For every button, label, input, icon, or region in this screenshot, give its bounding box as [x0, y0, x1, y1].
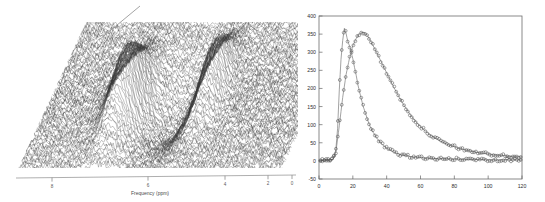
panel-background — [0, 0, 300, 202]
waterfall-svg: 86420 Frequency (ppm) — [0, 0, 300, 202]
y-tick-label: 0 — [313, 158, 316, 164]
x-tick-label-right: 60 — [418, 183, 424, 189]
panel-background-right — [300, 0, 545, 202]
y-tick-label: 50 — [310, 140, 316, 146]
panel-decay-curves: -50050100150200250300350400 020406080100… — [300, 0, 545, 202]
x-tick-label-right: 80 — [451, 183, 457, 189]
x-tick-label: 4 — [224, 182, 227, 187]
x-tick-label-right: 100 — [484, 183, 493, 189]
figure-container: 86420 Frequency (ppm) -50050100150200250… — [0, 0, 545, 202]
x-tick-label: 8 — [51, 184, 54, 189]
y-tick-label: 350 — [307, 31, 316, 37]
x-tick-label: 6 — [147, 183, 150, 188]
x-tick-label: 0 — [291, 181, 294, 186]
panel-waterfall-3d: 86420 Frequency (ppm) — [0, 0, 300, 202]
x-axis-label: Frequency (ppm) — [131, 190, 169, 196]
y-tick-label: 300 — [307, 49, 316, 55]
y-tick-label: 400 — [307, 13, 316, 19]
y-tick-label: -50 — [309, 176, 317, 182]
y-tick-label: 200 — [307, 85, 316, 91]
x-tick-label: 2 — [267, 181, 270, 186]
x-tick-label-right: 40 — [384, 183, 390, 189]
x-tick-label-right: 20 — [350, 183, 356, 189]
x-tick-label-right: 120 — [518, 183, 527, 189]
x-tick-label-right: 0 — [318, 183, 321, 189]
decay-svg: -50050100150200250300350400 020406080100… — [300, 0, 545, 202]
y-tick-label: 100 — [307, 122, 316, 128]
y-tick-label: 150 — [307, 104, 316, 110]
y-tick-label: 250 — [307, 67, 316, 73]
